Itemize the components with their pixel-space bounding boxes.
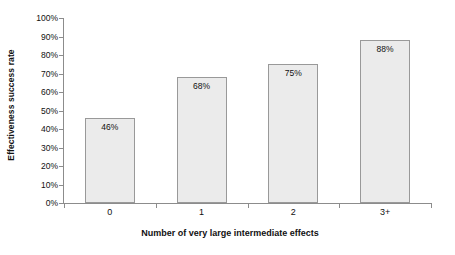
y-axis-tick-label: 50% (18, 106, 58, 115)
x-axis-tick-labels: 0123+ (64, 206, 431, 222)
y-axis-tick-mark (59, 37, 63, 38)
y-axis-tick-label: 40% (18, 125, 58, 134)
bar[interactable]: 46% (85, 118, 135, 203)
y-axis-tick-labels: 0%10%20%30%40%50%60%70%80%90%100% (18, 18, 58, 203)
bar[interactable]: 88% (360, 40, 410, 203)
x-axis-tick-label: 3+ (380, 206, 390, 218)
y-axis-tick-mark (59, 55, 63, 56)
bar-slot: 88% (339, 18, 431, 203)
x-axis-tick-mark (431, 203, 432, 208)
y-axis-tick-label: 0% (18, 199, 58, 208)
y-axis-tick-label: 100% (18, 14, 58, 23)
y-axis-tick-mark (59, 18, 63, 19)
y-axis-tick-label: 10% (18, 180, 58, 189)
bar-value-label: 88% (361, 45, 409, 54)
y-axis-tick-mark (59, 203, 63, 204)
bar-chart-figure: Effectiveness success rate 0%10%20%30%40… (0, 0, 455, 255)
x-axis-tick-mark (156, 203, 157, 208)
y-axis-tick-mark (59, 185, 63, 186)
bar-value-label: 75% (269, 69, 317, 78)
x-axis-tick-mark (64, 203, 65, 208)
x-axis-tick-mark (339, 203, 340, 208)
y-axis-title-text: Effectiveness success rate (6, 49, 16, 160)
y-axis-tick-mark (59, 166, 63, 167)
y-axis-tick-label: 80% (18, 51, 58, 60)
x-axis-title: Number of very large intermediate effect… (40, 228, 420, 238)
y-axis-tick-label: 20% (18, 162, 58, 171)
y-axis-tick-mark (59, 129, 63, 130)
y-axis-tick-mark (59, 92, 63, 93)
bar-slot: 68% (156, 18, 248, 203)
x-axis-tick-mark (248, 203, 249, 208)
x-axis-tick-label: 2 (291, 206, 296, 218)
bar-slot: 75% (248, 18, 340, 203)
x-axis-tick-label: 0 (107, 206, 112, 218)
y-axis-tick-mark (59, 148, 63, 149)
y-axis-tick-label: 70% (18, 69, 58, 78)
y-axis-tick-mark (59, 111, 63, 112)
bar-value-label: 46% (86, 123, 134, 132)
y-axis-tick-mark (59, 74, 63, 75)
bar-slot: 46% (64, 18, 156, 203)
x-axis-tick-label: 1 (199, 206, 204, 218)
bar[interactable]: 75% (268, 64, 318, 203)
y-axis-tick-label: 90% (18, 32, 58, 41)
y-axis-tick-label: 60% (18, 88, 58, 97)
bar-value-label: 68% (178, 82, 226, 91)
bar[interactable]: 68% (177, 77, 227, 203)
plot-area: 46%68%75%88% (64, 18, 431, 203)
y-axis-tick-label: 30% (18, 143, 58, 152)
